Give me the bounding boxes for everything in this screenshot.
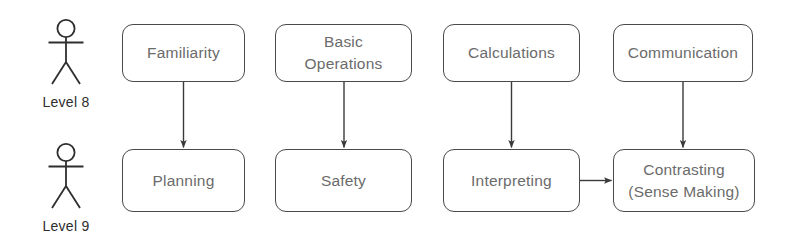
- node-contrasting-line-2: (Sense Making): [628, 181, 739, 203]
- actor-label-level-8: Level 8: [26, 94, 106, 110]
- node-planning[interactable]: Planning: [122, 149, 245, 212]
- node-planning-line-1: Planning: [153, 170, 215, 192]
- node-calculations[interactable]: Calculations: [443, 24, 580, 82]
- actor-label-level-9: Level 9: [26, 218, 106, 234]
- node-interpreting[interactable]: Interpreting: [443, 149, 580, 212]
- node-contrasting[interactable]: Contrasting (Sense Making): [613, 149, 755, 212]
- node-safety-line-1: Safety: [321, 170, 366, 192]
- node-basic-operations-line-2: Operations: [305, 53, 383, 75]
- node-basic-operations-line-1: Basic: [324, 31, 363, 53]
- node-familiarity[interactable]: Familiarity: [122, 24, 245, 82]
- node-interpreting-line-1: Interpreting: [471, 170, 552, 192]
- node-safety[interactable]: Safety: [275, 149, 412, 212]
- node-calculations-line-1: Calculations: [468, 42, 555, 64]
- node-basic-operations[interactable]: Basic Operations: [275, 24, 412, 82]
- node-communication[interactable]: Communication: [613, 24, 753, 82]
- diagram-canvas: Level 8 Level 9 Familiarity Basic Operat…: [0, 0, 788, 251]
- stick-figure-icon: [49, 144, 84, 208]
- node-contrasting-line-1: Contrasting: [643, 159, 724, 181]
- node-communication-line-1: Communication: [628, 42, 738, 64]
- stick-figure-icon: [49, 20, 84, 84]
- node-familiarity-line-1: Familiarity: [147, 42, 220, 64]
